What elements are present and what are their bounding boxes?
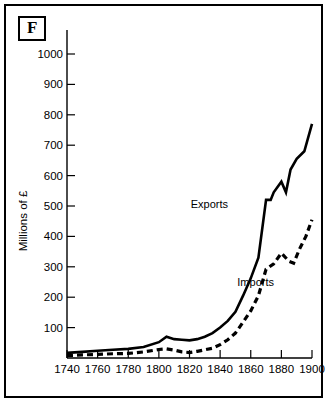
x-tick-label-1780: 1780	[115, 363, 141, 375]
x-tick-labels: 174017601780180018201840186018801900	[54, 363, 325, 375]
data-series-group	[67, 124, 312, 356]
y-axis: 1002003004005006007008009001000 Millions…	[17, 30, 75, 358]
y-tick-label-800: 800	[44, 109, 63, 121]
y-tick-label-700: 700	[44, 139, 63, 151]
y-tick-labels: 1002003004005006007008009001000	[37, 48, 63, 334]
y-tick-label-100: 100	[44, 322, 63, 334]
y-tick-label-600: 600	[44, 170, 63, 182]
y-axis-title: Millions of £	[17, 190, 29, 251]
x-tick-label-1900: 1900	[299, 363, 325, 375]
x-tick-label-1820: 1820	[177, 363, 203, 375]
x-tick-label-1740: 1740	[54, 363, 80, 375]
figure-frame: F 1002003004005006007008009001000 Millio…	[4, 4, 323, 398]
x-tick-label-1860: 1860	[238, 363, 264, 375]
y-tick-label-1000: 1000	[37, 48, 63, 60]
series-line-imports	[67, 220, 312, 356]
x-tick-label-1760: 1760	[85, 363, 111, 375]
y-tick-label-200: 200	[44, 291, 63, 303]
y-tick-label-500: 500	[44, 200, 63, 212]
series-annotation-exports: Exports	[191, 198, 229, 210]
line-chart: 1002003004005006007008009001000 Millions…	[6, 6, 325, 400]
x-tick-label-1800: 1800	[146, 363, 172, 375]
series-line-exports	[67, 124, 312, 353]
y-tick-label-900: 900	[44, 78, 63, 90]
series-annotations: ExportsImports	[191, 198, 275, 288]
x-tick-label-1840: 1840	[207, 363, 233, 375]
series-annotation-imports: Imports	[237, 276, 274, 288]
y-tick-label-300: 300	[44, 261, 63, 273]
x-tick-label-1880: 1880	[269, 363, 295, 375]
y-tick-marks	[67, 54, 75, 328]
y-tick-label-400: 400	[44, 230, 63, 242]
